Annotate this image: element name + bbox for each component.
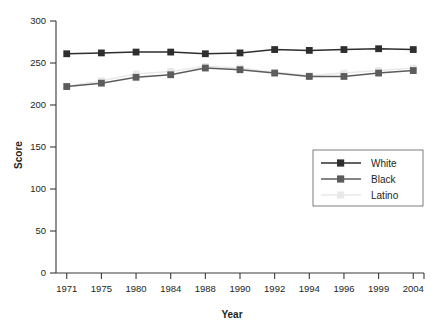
x-tick-label: 1996 — [333, 283, 354, 294]
x-axis-title: Year — [221, 309, 242, 320]
y-axis: 050100150200250300 — [30, 15, 56, 278]
x-tick-label: 1984 — [160, 283, 181, 294]
y-tick-label: 50 — [35, 225, 46, 236]
data-point-marker — [133, 74, 140, 81]
y-tick-label: 300 — [30, 15, 46, 26]
x-tick-label: 1990 — [229, 283, 250, 294]
y-tick-label: 150 — [30, 141, 46, 152]
data-point-marker — [167, 49, 174, 56]
legend-marker — [337, 191, 344, 198]
data-point-marker — [410, 46, 417, 53]
x-tick-label: 1999 — [368, 283, 389, 294]
data-point-marker — [202, 65, 209, 72]
x-tick-label: 1994 — [299, 283, 320, 294]
legend-label: Latino — [371, 190, 399, 201]
x-tick-label: 1980 — [125, 283, 146, 294]
data-point-marker — [306, 73, 313, 80]
legend-label: White — [371, 158, 397, 169]
legend-marker — [337, 159, 344, 166]
data-point-marker — [202, 50, 209, 57]
data-point-marker — [306, 47, 313, 54]
data-point-marker — [98, 50, 105, 57]
data-point-marker — [271, 46, 278, 53]
y-tick-label: 0 — [41, 267, 46, 278]
line-chart: 050100150200250300 197119751980198419881… — [0, 0, 441, 332]
data-point-marker — [237, 66, 244, 73]
data-point-marker — [410, 67, 417, 74]
x-tick-label: 1971 — [56, 283, 77, 294]
data-point-marker — [341, 46, 348, 53]
chart-canvas: 050100150200250300 197119751980198419881… — [0, 0, 441, 332]
data-point-marker — [375, 45, 382, 52]
series-white — [63, 45, 416, 57]
data-series-group — [63, 45, 416, 90]
data-point-marker — [237, 50, 244, 57]
legend-marker — [337, 175, 344, 182]
data-point-marker — [133, 49, 140, 56]
data-point-marker — [63, 50, 70, 57]
y-tick-label: 200 — [30, 99, 46, 110]
data-point-marker — [271, 70, 278, 77]
chart-legend: WhiteBlackLatino — [313, 150, 423, 206]
x-tick-label: 1992 — [264, 283, 285, 294]
x-tick-label: 2004 — [403, 283, 424, 294]
data-point-marker — [63, 83, 70, 90]
y-tick-label: 100 — [30, 183, 46, 194]
x-tick-label: 1988 — [195, 283, 216, 294]
legend-box — [313, 150, 423, 206]
data-point-marker — [341, 73, 348, 80]
x-tick-label: 1975 — [91, 283, 112, 294]
y-tick-label: 250 — [30, 57, 46, 68]
data-point-marker — [375, 70, 382, 77]
data-point-marker — [167, 71, 174, 78]
legend-label: Black — [371, 174, 396, 185]
data-point-marker — [98, 80, 105, 87]
y-axis-title: Score — [13, 141, 24, 169]
x-axis: 1971197519801984198819901992199419961999… — [56, 273, 424, 294]
